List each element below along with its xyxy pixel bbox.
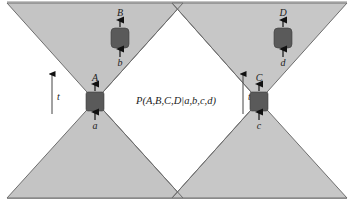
- left-time-axis: t: [52, 74, 60, 114]
- left-time-label: t: [57, 91, 60, 102]
- joint-probability-formula: P(A,B,C,D|a,b,c,d): [135, 95, 216, 107]
- output-label-C: C: [256, 72, 263, 83]
- input-label-c: c: [257, 120, 262, 131]
- input-label-a: a: [93, 120, 98, 131]
- output-label-A: A: [91, 72, 99, 83]
- light-cone-diagram: t t a A b B c C d D P(A,B,C,D|a,b,c,d): [0, 0, 355, 204]
- input-label-b: b: [118, 57, 123, 68]
- output-label-D: D: [278, 7, 287, 18]
- output-label-B: B: [117, 7, 123, 18]
